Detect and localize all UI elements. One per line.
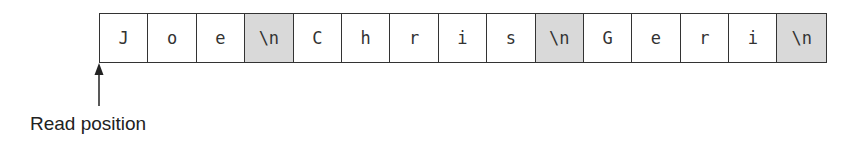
char-cell: o: [148, 14, 196, 62]
char-cell: G: [584, 14, 632, 62]
character-buffer: Joe\nChris\nGeri\n: [99, 13, 827, 63]
newline-cell: \n: [777, 14, 825, 62]
char-cell: i: [439, 14, 487, 62]
newline-cell: \n: [536, 14, 584, 62]
char-cell: J: [100, 14, 148, 62]
char-cell: e: [632, 14, 680, 62]
char-cell: h: [342, 14, 390, 62]
char-cell: e: [197, 14, 245, 62]
char-cell: r: [681, 14, 729, 62]
char-cell: C: [294, 14, 342, 62]
char-cell: i: [729, 14, 777, 62]
up-arrow-icon: [92, 63, 106, 107]
read-position-label: Read position: [30, 113, 146, 135]
char-cell: r: [390, 14, 438, 62]
char-cell: s: [487, 14, 535, 62]
newline-cell: \n: [245, 14, 293, 62]
